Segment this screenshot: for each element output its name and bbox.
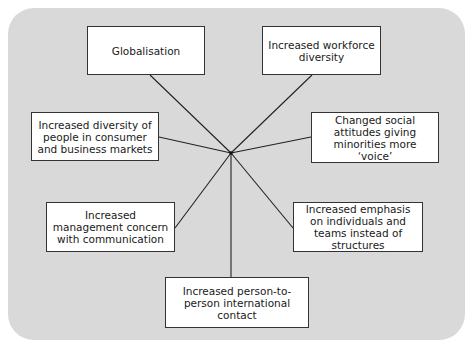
connector-voice bbox=[231, 137, 311, 153]
node-workforce: Increased workforce diversity bbox=[262, 26, 381, 75]
connector-consumer bbox=[159, 137, 231, 153]
node-globalisation: Globalisation bbox=[87, 26, 205, 75]
node-voice: Changed social attitudes giving minoriti… bbox=[311, 112, 439, 163]
connector-emphasis bbox=[231, 153, 293, 228]
node-management: Increased management concern with commun… bbox=[46, 202, 175, 252]
node-emphasis: Increased emphasis on individuals and te… bbox=[293, 202, 423, 252]
node-person: Increased person-to-person international… bbox=[165, 277, 309, 328]
node-consumer: Increased diversity of people in consume… bbox=[31, 112, 159, 161]
connector-globalisation bbox=[150, 75, 231, 153]
hub-point bbox=[229, 151, 233, 155]
connector-management bbox=[175, 153, 231, 228]
connector-workforce bbox=[231, 75, 312, 153]
